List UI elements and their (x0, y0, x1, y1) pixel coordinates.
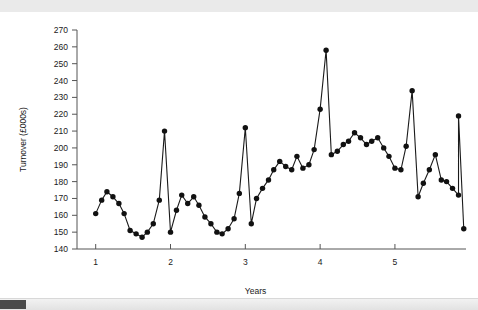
data-point (219, 231, 224, 236)
data-point (433, 152, 438, 157)
data-point (168, 229, 173, 234)
data-point (386, 154, 391, 159)
data-point (329, 152, 334, 157)
data-point (116, 201, 121, 206)
data-point (266, 177, 271, 182)
turnover-line-chart: 1401501601701801902002102202302402502602… (0, 12, 478, 296)
data-point (151, 221, 156, 226)
data-point (185, 201, 190, 206)
data-point (139, 235, 144, 240)
data-point (375, 135, 380, 140)
x-tick-label: 4 (318, 257, 323, 267)
series-points-turnover (93, 48, 466, 240)
data-point (352, 130, 357, 135)
data-point (381, 145, 386, 150)
data-point (341, 142, 346, 147)
y-tick-label: 260 (54, 42, 68, 52)
data-point (208, 221, 213, 226)
data-point (306, 162, 311, 167)
data-point (283, 164, 288, 169)
data-point (392, 165, 397, 170)
x-tick-label: 3 (243, 257, 248, 267)
x-axis-title: Years (245, 286, 266, 296)
data-point (157, 197, 162, 202)
data-point (369, 138, 374, 143)
data-point (191, 194, 196, 199)
data-point (271, 167, 276, 172)
horizontal-scrollbar[interactable] (0, 298, 478, 310)
data-point (127, 228, 132, 233)
data-point (196, 203, 201, 208)
data-point (214, 229, 219, 234)
data-point (249, 221, 254, 226)
data-point (243, 125, 248, 130)
data-point (450, 186, 455, 191)
y-tick-label: 270 (54, 25, 68, 35)
data-point (456, 192, 461, 197)
y-tick-label: 160 (54, 210, 68, 220)
y-tick-label: 220 (54, 109, 68, 119)
x-tick-label: 5 (393, 257, 398, 267)
data-point (323, 48, 328, 53)
data-point (421, 181, 426, 186)
y-tick-label: 250 (54, 59, 68, 69)
y-tick-label: 200 (54, 143, 68, 153)
data-point (99, 197, 104, 202)
top-band (0, 0, 478, 12)
data-point (231, 216, 236, 221)
data-point (461, 226, 466, 231)
data-point (93, 211, 98, 216)
data-point (202, 214, 207, 219)
data-point (289, 167, 294, 172)
data-point (403, 144, 408, 149)
data-point (444, 179, 449, 184)
data-point (358, 135, 363, 140)
data-point (427, 167, 432, 172)
data-point (179, 192, 184, 197)
data-point (225, 226, 230, 231)
chart-plot-area: 1401501601701801902002102202302402502602… (0, 12, 478, 296)
y-tick-label: 180 (54, 177, 68, 187)
series-line-turnover (96, 50, 464, 237)
y-tick-label: 240 (54, 76, 68, 86)
y-tick-label: 230 (54, 92, 68, 102)
data-point (300, 165, 305, 170)
data-point (398, 167, 403, 172)
x-tick-label: 2 (168, 257, 173, 267)
data-point (145, 229, 150, 234)
data-point (277, 159, 282, 164)
scrollbar-thumb[interactable] (0, 300, 26, 309)
y-tick-label: 210 (54, 126, 68, 136)
data-point (237, 191, 242, 196)
data-point (174, 208, 179, 213)
data-point (364, 142, 369, 147)
data-point (110, 194, 115, 199)
data-point (311, 147, 316, 152)
data-point (260, 186, 265, 191)
y-tick-label: 190 (54, 160, 68, 170)
data-point (317, 106, 322, 111)
y-tick-label: 170 (54, 193, 68, 203)
y-tick-label: 150 (54, 227, 68, 237)
data-point (346, 138, 351, 143)
x-axis-ticks: 12345 (93, 244, 397, 267)
data-point (409, 88, 414, 93)
y-tick-label: 140 (54, 244, 68, 254)
data-point (162, 128, 167, 133)
y-axis-title: Turnover (£000s) (18, 107, 28, 172)
y-axis-ticks: 1401501601701801902002102202302402502602… (54, 25, 77, 254)
data-point (104, 189, 109, 194)
data-point (121, 211, 126, 216)
data-point (335, 149, 340, 154)
data-point (456, 113, 461, 118)
x-tick-label: 1 (93, 257, 98, 267)
data-point (294, 154, 299, 159)
data-point (254, 196, 259, 201)
data-point (133, 231, 138, 236)
data-point (439, 177, 444, 182)
data-point (415, 194, 420, 199)
